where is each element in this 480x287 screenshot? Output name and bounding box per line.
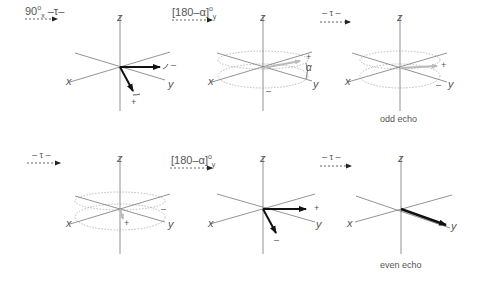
axis-x-label: x (66, 217, 72, 229)
step-label-180-top: [180–α]oy (172, 5, 216, 20)
step-label-tau-top: – τ – (322, 8, 341, 18)
axis-x-label: x (66, 75, 72, 87)
sign-plus: + (306, 52, 311, 62)
panel-bottom-1 (70, 157, 170, 254)
sign-plus: + (124, 218, 129, 228)
step-label-180-bottom: [180–α]oy (171, 153, 215, 168)
panel-top-2 (212, 15, 312, 111)
axis-z-label: z (398, 152, 404, 164)
pulse-sub: y (212, 161, 216, 168)
axis-z-label: z (397, 11, 403, 23)
panel-top-3 (348, 15, 447, 111)
sign-minus: – (436, 80, 441, 90)
axis-x-label: x (345, 75, 351, 87)
pulse-text: [180–α] (171, 154, 208, 166)
axis-y-label: y (168, 78, 174, 90)
axis-y-label: y (451, 220, 457, 232)
pulse-tail: –τ– (45, 5, 65, 17)
step-arrows (25, 19, 351, 168)
sign-minus: – (266, 86, 271, 96)
pulse-sup: o (37, 4, 41, 11)
pulse-sup: o (208, 153, 212, 160)
vectors-top-1 (120, 67, 160, 91)
step-label-tau-bottom-1: – τ – (32, 150, 51, 160)
sign-plus: + (314, 203, 319, 213)
angle-alpha-label: α (306, 62, 312, 73)
sign-minus: – (171, 60, 176, 70)
panel-bottom-2 (210, 157, 315, 254)
axis-z-label: z (117, 11, 123, 23)
odd-echo-caption: odd echo (380, 114, 417, 124)
sign-minus: – (161, 204, 166, 214)
diagram-canvas (0, 0, 480, 287)
step-label-90x: 90ox –τ– (25, 4, 64, 19)
axis-x-label: x (208, 75, 214, 87)
axis-y-label: y (313, 78, 319, 90)
axis-y-label: y (448, 78, 454, 90)
pulse-sub: y (213, 13, 217, 20)
axis-z-label: z (260, 152, 266, 164)
even-echo-caption: even echo (380, 260, 422, 270)
sign-plus: + (131, 97, 136, 107)
axis-x-label: x (347, 217, 353, 229)
panel-top-1 (70, 15, 170, 111)
sign-minus: – (274, 235, 279, 245)
axis-y-label: y (168, 218, 174, 230)
pulse-text: 90 (25, 5, 37, 17)
axis-z-label: z (117, 152, 123, 164)
pulse-text: [180–α] (172, 6, 209, 18)
sign-plus: + (441, 60, 446, 70)
panel-bottom-3 (355, 157, 452, 254)
axis-x-label: x (208, 217, 214, 229)
axis-y-label: y (316, 218, 322, 230)
step-label-tau-bottom-2: – τ – (322, 152, 341, 162)
axis-z-label: z (260, 11, 266, 23)
pulse-sup: o (209, 5, 213, 12)
